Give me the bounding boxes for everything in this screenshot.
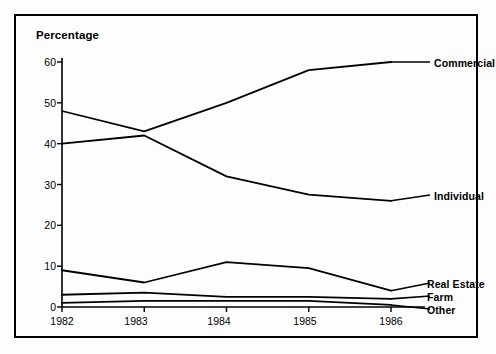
chart-plot-area: [0, 0, 496, 354]
series-line-real-estate: [62, 262, 391, 291]
chart-figure: Percentage 60 50 40 30 20 10 0 1982 1983…: [0, 0, 496, 354]
label-leader-lines: [391, 62, 430, 309]
series-line-farm: [62, 293, 391, 299]
series-line-other: [62, 301, 391, 305]
data-series-lines: [62, 62, 391, 305]
series-line-individual: [62, 136, 391, 201]
series-line-commercial: [62, 62, 391, 131]
leader-line-individual: [391, 195, 430, 201]
leader-line-farm: [391, 296, 430, 299]
leader-line-real-estate: [391, 283, 430, 291]
